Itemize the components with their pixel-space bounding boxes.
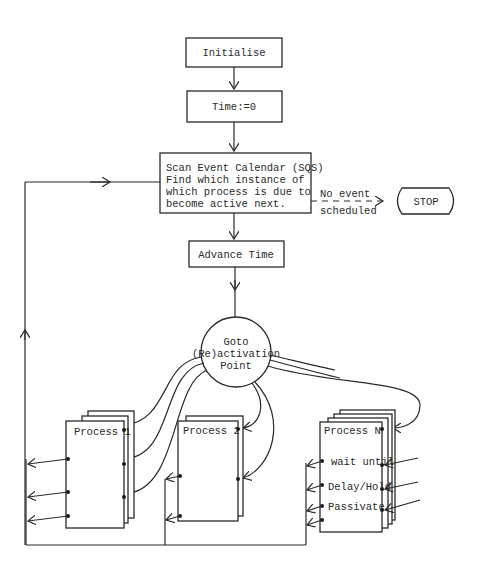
initialise-box: Initialise	[186, 38, 282, 67]
scan-event-calendar-box: Scan Event Calendar (SQS) Find which ins…	[160, 153, 324, 213]
no-event-label-1: No event	[320, 188, 370, 200]
arrow-p1-exit-3	[28, 516, 68, 521]
scan-line-2: Find which instance of	[166, 174, 305, 186]
process-1-stack: Process 1	[66, 411, 134, 528]
curve-goto-to-p2-b	[243, 382, 274, 478]
curve-goto-to-p1-a	[125, 357, 202, 425]
process-1-label: Process 1	[74, 426, 131, 438]
advance-time-label: Advance Time	[198, 249, 274, 261]
flowchart-canvas: Initialise Time:=0 Scan Event Calendar (…	[0, 0, 482, 574]
goto-reactivation-circle: Goto (Re)activation Point	[192, 317, 280, 387]
goto-line-3: Point	[220, 360, 252, 372]
stop-terminator: STOP	[398, 188, 454, 214]
scan-line-1: Scan Event Calendar (SQS)	[166, 162, 324, 174]
curve-goto-to-p2-a	[243, 383, 261, 428]
process-2-stack: Process 2	[178, 416, 243, 521]
goto-line-2: (Re)activation	[192, 348, 280, 360]
stop-label: STOP	[413, 196, 438, 208]
scan-line-3: which process is due to	[166, 186, 311, 198]
time-zero-box: Time:=0	[187, 91, 282, 122]
process-n-stmt-wait-until: wait until	[331, 456, 394, 468]
no-event-label-2: scheduled	[320, 205, 377, 217]
arrow-p1-exit-1	[28, 459, 68, 464]
process-n-stack: Process N wait until Delay/Hold Passivat…	[320, 410, 395, 532]
goto-line-1: Goto	[223, 336, 248, 348]
process-n-stmt-delay-hold: Delay/Hold	[328, 481, 391, 493]
advance-time-box: Advance Time	[189, 241, 284, 267]
scan-line-4: become active next.	[166, 198, 286, 210]
process-2-label: Process 2	[183, 425, 240, 437]
process-n-label: Process N	[324, 425, 381, 437]
initialise-label: Initialise	[202, 47, 265, 59]
time-zero-label: Time:=0	[212, 101, 256, 113]
process-n-stmt-passivate: Passivate	[328, 501, 385, 513]
arrow-p1-exit-2	[28, 492, 68, 497]
